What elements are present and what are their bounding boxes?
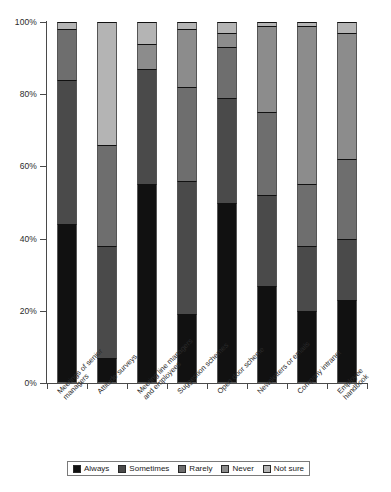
legend-swatch-icon [178,465,186,473]
y-axis-tick-label: 20% [20,306,37,316]
bar-column [257,22,277,383]
x-axis-tick [367,384,368,389]
x-axis-tick [127,384,128,389]
bar-segment [57,22,77,29]
plot-area [47,22,367,383]
y-axis-tick [40,166,47,167]
legend-item: Never [221,464,253,473]
bar-segment [217,22,237,33]
legend-item: Not sure [263,464,304,473]
bar-segment [257,195,277,285]
bar-column [217,22,237,383]
bar-segment [257,112,277,195]
legend-label: Not sure [274,464,304,473]
legend-label: Never [232,464,253,473]
bar-segment [217,47,237,98]
bar-column [97,22,117,383]
y-axis-tick-label: 80% [20,89,37,99]
bar-segment [177,181,197,315]
bar-segment [137,22,157,44]
bar-segment [57,29,77,80]
bar-segment [177,22,197,29]
y-axis-tick [40,239,47,240]
bar-segment [337,33,357,159]
y-axis-tick [40,311,47,312]
bar-segment [337,159,357,238]
bar-column [177,22,197,383]
bar-segment [257,26,277,113]
bar-segment [217,98,237,203]
bar-segment [297,26,317,185]
y-axis-tick-label: 100% [15,17,37,27]
bar-segment [297,246,317,311]
bar-column [297,22,317,383]
bar-column [337,22,357,383]
legend-label: Rarely [189,464,212,473]
x-axis-tick [327,384,328,389]
bar-segment [97,22,117,145]
bar-segment [257,22,277,26]
legend-swatch-icon [118,465,126,473]
legend-item: Rarely [178,464,212,473]
bar-segment [137,184,157,383]
legend-item: Always [73,464,109,473]
bar-segment [97,246,117,358]
bar-segment [57,80,77,224]
bar-segment [337,239,357,300]
bar-segment [177,87,197,181]
bar-segment [337,22,357,33]
y-axis-tick-label: 40% [20,234,37,244]
y-axis-tick [40,22,47,23]
bar-segment [177,29,197,87]
bar-segment [217,33,237,47]
legend-swatch-icon [73,465,81,473]
bar-segment [297,184,317,245]
y-axis-tick [40,94,47,95]
x-axis-tick [167,384,168,389]
y-axis-tick-label: 0% [25,378,38,388]
bar-segment [57,224,77,383]
legend-swatch-icon [221,465,229,473]
chart-legend: AlwaysSometimesRarelyNeverNot sure [67,461,310,476]
bar-column [57,22,77,383]
y-axis-tick [40,383,47,384]
bar-segment [297,22,317,26]
bar-column [137,22,157,383]
y-axis-tick-label: 60% [20,161,37,171]
legend-label: Sometimes [129,464,169,473]
x-axis-tick [47,384,48,389]
x-axis-tick [87,384,88,389]
x-axis-tick [207,384,208,389]
bar-segment [257,286,277,383]
legend-label: Always [84,464,109,473]
legend-item: Sometimes [118,464,169,473]
bar-segment [97,145,117,246]
x-axis-tick [287,384,288,389]
legend-swatch-icon [263,465,271,473]
bar-segment [137,44,157,69]
x-axis-tick [247,384,248,389]
stacked-bar-chart: 0%20%40%60%80%100% Meetings of senior ma… [0,0,391,492]
bar-segment [137,69,157,185]
